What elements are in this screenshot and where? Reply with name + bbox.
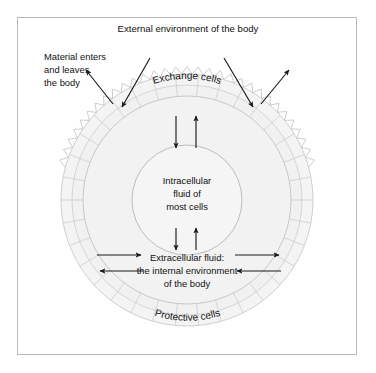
material-exchange-label: Material enters and leaves the body xyxy=(44,51,106,88)
arrow-material-out-right xyxy=(261,70,289,104)
material-label-line-1: Material enters xyxy=(44,51,106,62)
extracellular-line-3: of the body xyxy=(164,278,211,289)
material-label-line-3: the body xyxy=(44,77,80,88)
arrow-material-out-left xyxy=(86,70,113,104)
intracellular-line-3: most cells xyxy=(166,201,208,212)
intracellular-compartment xyxy=(132,145,242,255)
extracellular-line-2: the internal environment xyxy=(137,265,238,276)
intracellular-line-1: Intracellular xyxy=(163,175,211,186)
extracellular-line-1: Extracellular fluid: xyxy=(150,252,224,263)
body-environment-diagram: External environment of the body Materia… xyxy=(0,0,376,373)
material-label-line-2: and leaves xyxy=(44,64,90,75)
intracellular-line-2: fluid of xyxy=(173,188,201,199)
diagram-title: External environment of the body xyxy=(118,23,259,34)
